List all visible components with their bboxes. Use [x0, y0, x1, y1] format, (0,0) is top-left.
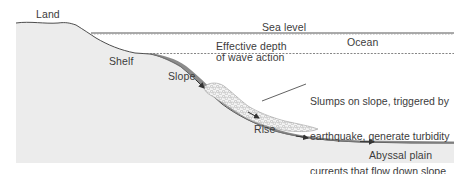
- callout-leader-line: [262, 84, 306, 101]
- sea-level-label: Sea level: [262, 22, 306, 33]
- rise-label: Rise: [254, 124, 275, 135]
- land-label: Land: [36, 9, 60, 20]
- slump-annotation: Slumps on slope, triggered by earthquake…: [310, 73, 459, 174]
- shelf-label: Shelf: [109, 56, 133, 67]
- effective-depth-label-line2: of wave action: [216, 52, 285, 63]
- ocean-label: Ocean: [347, 37, 378, 48]
- slope-label: Slope: [168, 71, 195, 82]
- annotation-line-3: currents that flow down slope: [310, 166, 459, 174]
- ocean-floor-diagram: Land Sea level Ocean Effective depth of …: [0, 0, 470, 174]
- annotation-line-1: Slumps on slope, triggered by: [310, 96, 459, 108]
- annotation-line-2: earthquake, generate turbidity: [310, 131, 459, 143]
